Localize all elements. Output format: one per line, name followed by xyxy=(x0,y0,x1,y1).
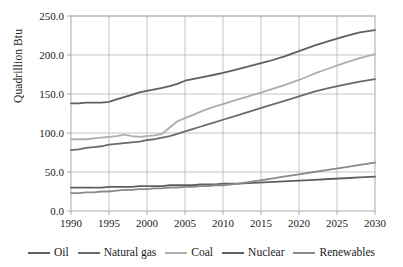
line-chart: Quadrillion Btu 0.050.0100.0150.0200.025… xyxy=(0,0,403,267)
legend-line-icon xyxy=(293,252,315,254)
legend-item-renewables[interactable]: Renewables xyxy=(293,247,375,259)
legend-item-label: Nuclear xyxy=(248,247,284,259)
legend-line-icon xyxy=(222,252,244,254)
x-axis-tick-labels: 199019952000200520102015202020252030 xyxy=(0,0,403,267)
legend-item-label: Oil xyxy=(54,247,69,259)
legend-item-label: Coal xyxy=(191,247,213,259)
legend-item-label: Natural gas xyxy=(104,247,157,259)
legend-item-label: Renewables xyxy=(319,247,375,259)
legend-item-coal[interactable]: Coal xyxy=(165,247,213,259)
legend-line-icon xyxy=(28,252,50,254)
legend-item-nuclear[interactable]: Nuclear xyxy=(222,247,284,259)
x-axis-tick-label: 2030 xyxy=(352,217,398,229)
legend-item-natural-gas[interactable]: Natural gas xyxy=(78,247,157,259)
chart-legend: OilNatural gasCoalNuclearRenewables xyxy=(0,243,403,263)
legend-item-oil[interactable]: Oil xyxy=(28,247,69,259)
legend-line-icon xyxy=(78,252,100,254)
legend-line-icon xyxy=(165,252,187,254)
